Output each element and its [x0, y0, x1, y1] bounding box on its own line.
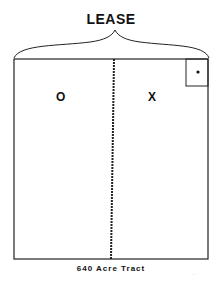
reference-code: · · ·: [192, 273, 197, 277]
lease-brace: [14, 30, 209, 58]
tract-label-x: X: [148, 90, 156, 104]
well-dot-icon: [196, 70, 199, 73]
tract-label-o: O: [56, 90, 65, 104]
lease-diagram: [0, 0, 222, 287]
tract-caption: 640 Acre Tract: [0, 264, 222, 273]
tract-boundary: [14, 59, 208, 259]
lease-divider-line: [111, 59, 114, 259]
